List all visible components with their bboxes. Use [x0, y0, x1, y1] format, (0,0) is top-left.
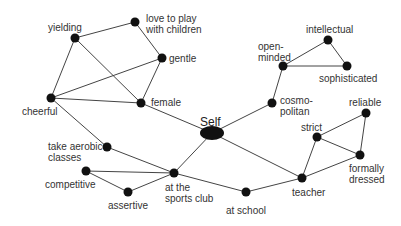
edge-competitive-sportsclub: [86, 171, 174, 173]
node-label-yielding: yielding: [48, 22, 82, 33]
node-label-cheerful: cheerful: [22, 106, 58, 117]
node-label-cosmopolitan: cosmo- politan: [280, 95, 313, 117]
edge-cheerful-aerobic: [51, 98, 107, 147]
edge-reliable-formally: [360, 113, 366, 155]
node-label-assertive: assertive: [108, 200, 148, 211]
edge-aerobic-sportsclub: [107, 147, 174, 173]
edge-layer: [51, 22, 366, 192]
node-yielding: [71, 34, 80, 43]
node-aerobic: [103, 143, 112, 152]
node-label-aerobic: take aerobic classes: [48, 141, 102, 163]
edge-yielding-cheerful: [51, 38, 75, 98]
node-reliable: [362, 109, 371, 118]
edge-yielding-love: [75, 22, 135, 38]
edge-gentle-cheerful: [51, 58, 162, 98]
node-female: [137, 99, 146, 108]
node-label-strict: strict: [301, 122, 322, 133]
node-label-openminded: open- minded: [258, 41, 291, 63]
node-gentle: [158, 54, 167, 63]
node-label-intellectual: intellectual: [306, 24, 353, 35]
edge-strict-reliable: [317, 113, 366, 137]
node-label-formally: formally dressed: [349, 163, 385, 185]
node-label-self: Self: [200, 116, 221, 129]
node-label-female: female: [151, 97, 181, 108]
node-label-atschool: at school: [226, 205, 266, 216]
self-concept-network-diagram: yieldinglove to play with childrengentle…: [0, 0, 401, 226]
node-strict: [313, 133, 322, 142]
node-label-sportsclub: at the sports club: [165, 182, 213, 204]
edge-yielding-female: [75, 38, 141, 103]
edge-strict-formally: [317, 137, 360, 155]
node-sophisticated: [343, 62, 352, 71]
node-cosmopolitan: [268, 99, 277, 108]
node-competitive: [82, 167, 91, 176]
node-label-sophisticated: sophisticated: [319, 73, 377, 84]
node-teacher: [298, 174, 307, 183]
node-intellectual: [324, 36, 333, 45]
node-formally: [356, 151, 365, 160]
node-label-competitive: competitive: [45, 179, 96, 190]
edge-self-teacher: [212, 133, 302, 178]
node-love: [131, 18, 140, 27]
edge-teacher-strict: [302, 137, 317, 178]
node-label-reliable: reliable: [349, 97, 381, 108]
edge-intellectual-sophisticated: [328, 40, 347, 66]
node-cheerful: [47, 94, 56, 103]
node-atschool: [242, 188, 251, 197]
node-assertive: [124, 188, 133, 197]
node-sportsclub: [170, 169, 179, 178]
node-label-teacher: teacher: [292, 187, 325, 198]
edge-cheerful-female: [51, 98, 141, 103]
node-label-gentle: gentle: [169, 53, 196, 64]
node-label-love: love to play with children: [146, 13, 202, 35]
